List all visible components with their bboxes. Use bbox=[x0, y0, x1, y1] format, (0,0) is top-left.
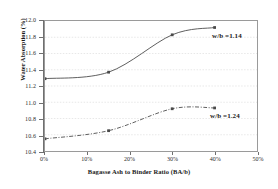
x-tick-label: 0% bbox=[27, 156, 61, 162]
x-tick-mark bbox=[258, 152, 259, 155]
y-tick-mark bbox=[39, 70, 43, 71]
x-axis-title: Bagasse Ash to Binder Ratio (BA/b) bbox=[0, 168, 278, 175]
y-tick-mark bbox=[39, 152, 43, 153]
y-tick-mark bbox=[39, 53, 43, 54]
x-tick-label: 30% bbox=[155, 156, 189, 162]
x-tick-mark bbox=[87, 152, 88, 155]
x-tick-label: 40% bbox=[198, 156, 232, 162]
y-tick-mark bbox=[39, 86, 43, 87]
y-tick-mark bbox=[39, 103, 43, 104]
x-tick-mark bbox=[44, 152, 45, 155]
series-line-1 bbox=[45, 107, 215, 139]
data-point-marker bbox=[45, 137, 46, 140]
y-tick-label: 12.0 bbox=[0, 17, 36, 23]
y-tick-label: 11.4 bbox=[0, 67, 36, 73]
y-tick-label: 11.2 bbox=[0, 83, 36, 89]
x-tick-label: 20% bbox=[113, 156, 147, 162]
series-line-0 bbox=[45, 28, 215, 79]
data-point-marker bbox=[107, 129, 110, 132]
data-point-marker bbox=[171, 107, 174, 110]
series-lines bbox=[45, 21, 257, 151]
x-tick-mark bbox=[172, 152, 173, 155]
y-tick-mark bbox=[39, 136, 43, 137]
x-tick-mark bbox=[215, 152, 216, 155]
y-tick-label: 10.6 bbox=[0, 133, 36, 139]
x-tick-mark bbox=[130, 152, 131, 155]
y-tick-mark bbox=[39, 119, 43, 120]
y-tick-label: 11.8 bbox=[0, 34, 36, 40]
data-point-marker bbox=[107, 71, 110, 74]
data-point-marker bbox=[213, 26, 216, 29]
y-tick-label: 10.4 bbox=[0, 149, 36, 155]
y-tick-mark bbox=[39, 37, 43, 38]
series-annotation-wb-124: w/b =1.24 bbox=[210, 112, 240, 120]
y-tick-label: 11.0 bbox=[0, 100, 36, 106]
y-tick-label: 10.8 bbox=[0, 116, 36, 122]
data-point-marker bbox=[45, 77, 46, 80]
x-tick-label: 50% bbox=[241, 156, 275, 162]
y-tick-mark bbox=[39, 20, 43, 21]
data-point-marker bbox=[213, 107, 216, 110]
water-absorption-chart: Water Absorption (%) 10.410.610.811.011.… bbox=[0, 0, 278, 189]
y-tick-label: 11.6 bbox=[0, 50, 36, 56]
x-tick-label: 10% bbox=[70, 156, 104, 162]
series-annotation-wb-114: w/b =1.14 bbox=[212, 32, 242, 40]
data-point-marker bbox=[171, 33, 174, 36]
